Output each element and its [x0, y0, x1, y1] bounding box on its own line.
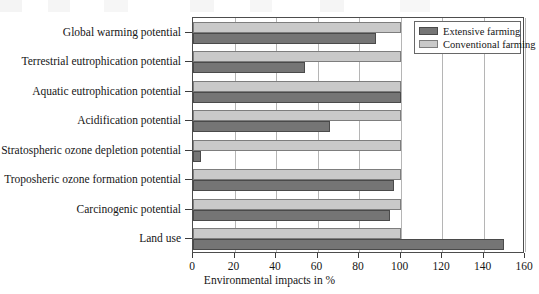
x-tick-80	[358, 253, 359, 258]
gridline-100	[401, 18, 402, 252]
x-tick-label-80: 80	[338, 260, 378, 272]
bar-conventional-farming	[193, 228, 401, 239]
x-tick-label-100: 100	[380, 260, 420, 272]
bar-extensive-farming	[193, 62, 305, 73]
legend-item-extensive-farming: Extensive farming	[419, 25, 516, 37]
bar-conventional-farming	[193, 199, 401, 210]
plot-area: Extensive farming Conventional farming	[192, 17, 524, 253]
bar-conventional-farming	[193, 140, 401, 151]
category-tick-6	[185, 209, 192, 210]
legend-label-extensive-farming: Extensive farming	[443, 26, 520, 37]
legend-swatch-extensive-farming	[419, 27, 438, 35]
category-tick-5	[185, 179, 192, 180]
x-tick-label-20: 20	[214, 260, 254, 272]
legend-label-conventional-farming: Conventional farming	[443, 39, 535, 50]
x-tick-0	[192, 253, 193, 258]
category-label: Land use	[0, 232, 181, 244]
chart-legend: Extensive farming Conventional farming	[414, 21, 521, 54]
category-tick-3	[185, 120, 192, 121]
bar-extensive-farming	[193, 180, 394, 191]
category-tick-7	[185, 238, 192, 239]
x-tick-label-0: 0	[172, 260, 212, 272]
gridline-160	[525, 18, 526, 252]
bar-extensive-farming	[193, 151, 201, 162]
scan-noise-artifact	[0, 0, 539, 12]
category-tick-4	[185, 150, 192, 151]
bar-extensive-farming	[193, 121, 330, 132]
legend-swatch-conventional-farming	[419, 40, 438, 48]
category-label: Global warming potential	[0, 26, 181, 38]
bar-conventional-farming	[193, 22, 401, 33]
bar-conventional-farming	[193, 110, 401, 121]
x-tick-label-140: 140	[463, 260, 503, 272]
category-tick-1	[185, 61, 192, 62]
x-tick-40	[275, 253, 276, 258]
x-tick-60	[317, 253, 318, 258]
x-tick-label-160: 160	[504, 260, 539, 272]
x-tick-140	[483, 253, 484, 258]
bar-conventional-farming	[193, 81, 401, 92]
category-label: Troposheric ozone formation potential	[0, 173, 181, 185]
category-label: Terrestrial eutrophication potential	[0, 55, 181, 67]
x-tick-120	[441, 253, 442, 258]
legend-item-conventional-farming: Conventional farming	[419, 38, 516, 50]
bar-extensive-farming	[193, 92, 401, 103]
category-label: Aquatic eutrophication potential	[0, 85, 181, 97]
category-label: Stratospheric ozone depletion potential	[0, 144, 181, 156]
x-tick-20	[234, 253, 235, 258]
category-tick-0	[185, 32, 192, 33]
x-tick-100	[400, 253, 401, 258]
x-tick-label-120: 120	[421, 260, 461, 272]
x-axis-title: Environmental impacts in %	[0, 274, 539, 286]
bar-conventional-farming	[193, 169, 401, 180]
bar-extensive-farming	[193, 239, 504, 250]
x-tick-label-60: 60	[297, 260, 337, 272]
bar-conventional-farming	[193, 51, 401, 62]
category-tick-2	[185, 91, 192, 92]
category-label: Acidification potential	[0, 114, 181, 126]
x-tick-160	[524, 253, 525, 258]
x-tick-label-40: 40	[255, 260, 295, 272]
bar-extensive-farming	[193, 210, 390, 221]
category-label: Carcinogenic potential	[0, 203, 181, 215]
chart-figure: Global warming potentialTerrestrial eutr…	[0, 0, 539, 294]
bar-extensive-farming	[193, 33, 376, 44]
